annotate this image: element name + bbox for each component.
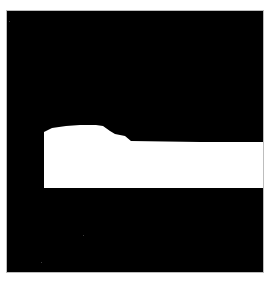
noise-speck [83,235,84,236]
noise-speck [41,262,42,263]
noise-speck [9,21,10,22]
mask-foreground-shape [0,0,270,282]
image-canvas [0,0,270,282]
